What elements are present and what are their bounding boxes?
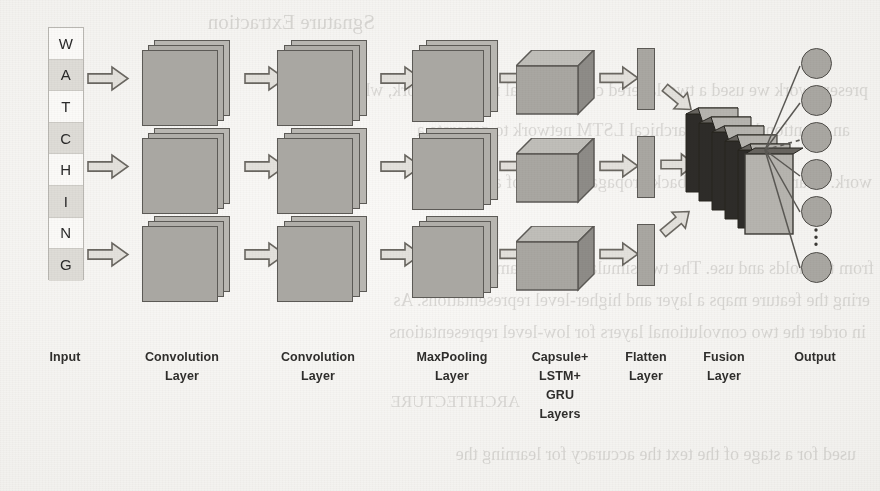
layer-label-line: Capsule+: [512, 348, 608, 367]
arrow-input-to-conv1-row2: [88, 155, 128, 178]
layer-label-line: Layer: [398, 367, 506, 386]
conv1-feature-maps-row3: [142, 216, 234, 308]
flatten-bar-row1: [637, 48, 655, 110]
input-cell-n: N: [49, 218, 83, 250]
conv2-feature-maps-row2: [277, 128, 369, 220]
feature-map-sheet: [412, 138, 484, 210]
layer-label-line: GRU: [512, 386, 608, 405]
layer-label-line: Convolution: [262, 348, 374, 367]
layer-label-line: Convolution: [126, 348, 238, 367]
conv2-feature-maps-row1: [277, 40, 369, 132]
output-node-2: [801, 85, 832, 116]
feature-map-sheet: [142, 226, 218, 302]
input-cell-a: A: [49, 60, 83, 92]
conv1-feature-maps-row2: [142, 128, 234, 220]
layer-label-line: Output: [772, 348, 858, 367]
flatten-bar-row3: [637, 224, 655, 286]
flatten-bar-row2: [637, 136, 655, 198]
arrow-capsule-to-flatten-row3: [600, 243, 638, 265]
layer-label-line: Layer: [262, 367, 374, 386]
layer-label-capsule: Capsule+LSTM+GRULayers: [512, 348, 608, 424]
layer-label-line: Layers: [512, 405, 608, 424]
layer-label-fusion: FusionLayer: [686, 348, 762, 386]
arrow-capsule-to-flatten-row1: [600, 67, 638, 89]
layer-label-line: Layer: [126, 367, 238, 386]
input-cell-t: T: [49, 91, 83, 123]
input-cell-w: W: [49, 28, 83, 60]
layer-label-maxpool: MaxPoolingLayer: [398, 348, 506, 386]
conv2-feature-maps-row3: [277, 216, 369, 308]
output-node-5: [801, 196, 832, 227]
layer-label-line: LSTM+: [512, 367, 608, 386]
layer-label-output: Output: [772, 348, 858, 367]
feature-map-sheet: [412, 226, 484, 298]
feature-map-sheet: [142, 50, 218, 126]
arrow-input-to-conv1-row3: [88, 243, 128, 266]
layer-label-conv2: ConvolutionLayer: [262, 348, 374, 386]
layer-label-line: Layer: [608, 367, 684, 386]
output-node-3: [801, 122, 832, 153]
layer-label-line: Layer: [686, 367, 762, 386]
maxpool-feature-maps-row2: [412, 128, 500, 216]
layer-label-line: MaxPooling: [398, 348, 506, 367]
capsule-lstm-gru-cuboid-row1: [516, 50, 594, 114]
conv1-feature-maps-row1: [142, 40, 234, 132]
layer-label-line: Input: [30, 348, 100, 367]
input-cell-g: G: [49, 249, 83, 281]
capsule-lstm-gru-cuboid-row3: [516, 226, 594, 290]
maxpool-feature-maps-row1: [412, 40, 500, 128]
layer-label-input: Input: [30, 348, 100, 367]
layer-label-line: Flatten: [608, 348, 684, 367]
feature-map-sheet: [142, 138, 218, 214]
input-cell-i: I: [49, 186, 83, 218]
arrow-input-to-conv1-row1: [88, 67, 128, 90]
arrow-capsule-to-flatten-row2: [600, 155, 638, 177]
layer-label-line: Fusion: [686, 348, 762, 367]
figure-canvas: WATCHING: [0, 0, 880, 491]
output-node-6: [801, 252, 832, 283]
feature-map-sheet: [277, 138, 353, 214]
output-node-1: [801, 48, 832, 79]
output-node-4: [801, 159, 832, 190]
capsule-lstm-gru-cuboid-row2: [516, 138, 594, 202]
feature-map-sheet: [277, 50, 353, 126]
layer-label-flatten: FlattenLayer: [608, 348, 684, 386]
feature-map-sheet: [277, 226, 353, 302]
input-cell-c: C: [49, 123, 83, 155]
maxpool-feature-maps-row3: [412, 216, 500, 304]
input-cell-h: H: [49, 154, 83, 186]
feature-map-sheet: [412, 50, 484, 122]
layer-label-conv1: ConvolutionLayer: [126, 348, 238, 386]
fusion-layer-stack: [686, 108, 804, 238]
input-character-column: WATCHING: [48, 27, 84, 280]
